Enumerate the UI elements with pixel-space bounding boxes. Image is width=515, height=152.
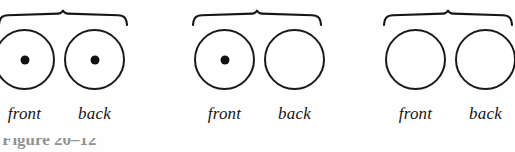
coin-back-group-1	[64, 29, 125, 90]
group-2-brace	[192, 10, 322, 26]
group-1-brace	[0, 10, 128, 26]
group-3-coin-row	[385, 29, 515, 90]
group-2-coin-row	[194, 29, 325, 90]
label-back-group-1: back	[64, 104, 125, 124]
figure-caption-cutoff: Figure 20–12	[2, 138, 177, 152]
pip-icon	[220, 55, 229, 64]
coin-front-group-3	[385, 29, 446, 90]
pip-icon	[20, 55, 29, 64]
figure-caption-text: Figure 20–12	[2, 138, 177, 147]
group-3-brace	[383, 10, 513, 26]
coin-back-group-2	[264, 29, 325, 90]
label-back-group-2: back	[264, 104, 325, 124]
label-front-group-3: front	[385, 104, 446, 124]
figure-container: front back front back	[0, 0, 515, 152]
label-front-group-1: front	[0, 104, 55, 124]
group-2-label-row: front back	[194, 104, 325, 124]
pip-icon	[90, 55, 99, 64]
coin-front-group-1	[0, 29, 55, 90]
coin-front-group-2	[194, 29, 255, 90]
label-front-group-2: front	[194, 104, 255, 124]
group-1-coin-row	[0, 29, 125, 90]
group-3-label-row: front back	[385, 104, 515, 124]
label-back-group-3: back	[455, 104, 515, 124]
group-1-label-row: front back	[0, 104, 125, 124]
coin-back-group-3	[455, 29, 515, 90]
